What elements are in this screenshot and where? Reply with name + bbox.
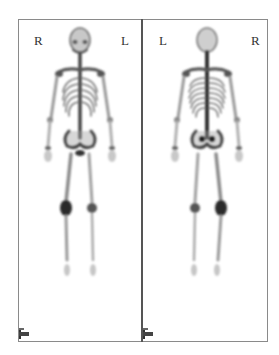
scale-marker-tick (19, 328, 24, 330)
scale-marker-bar (19, 332, 29, 336)
posterior-skeleton-image (143, 20, 267, 341)
scale-marker-bar (143, 332, 153, 336)
anterior-skeleton-image (19, 20, 141, 341)
scale-marker-tick (143, 328, 148, 330)
posterior-view-panel: L R (143, 20, 267, 341)
anterior-view-panel: R L (19, 20, 141, 341)
